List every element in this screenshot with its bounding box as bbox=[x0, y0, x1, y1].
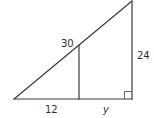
hypotenuse bbox=[14, 1, 132, 99]
label-vertical-side: 24 bbox=[137, 51, 150, 61]
label-hypotenuse-segment: 30 bbox=[61, 39, 74, 49]
label-base-right: y bbox=[103, 105, 109, 115]
triangle-diagram bbox=[0, 0, 154, 118]
right-angle-marker bbox=[125, 92, 133, 100]
label-base-left: 12 bbox=[45, 105, 58, 115]
